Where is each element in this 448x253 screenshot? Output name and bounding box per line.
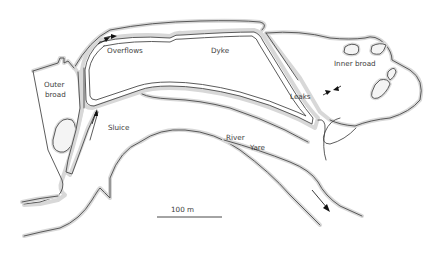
- scale-bar: 100 m: [157, 205, 222, 217]
- label-leaks: Leaks: [290, 92, 311, 101]
- label-river: River: [226, 133, 245, 142]
- inner-broad: [266, 32, 421, 144]
- label-outer-broad-2: broad: [45, 90, 66, 99]
- leaks-marker: [323, 86, 341, 95]
- label-sluice: Sluice: [108, 123, 130, 132]
- outer-shoreline: [74, 21, 265, 68]
- label-dyke: Dyke: [211, 46, 230, 55]
- flow-direction-arrow-icon: [323, 204, 330, 212]
- southern-bank: [142, 94, 326, 160]
- broad-site-map: Overflows Dyke Outer broad Inner broad L…: [0, 0, 448, 253]
- leak-arrow-icon: [333, 86, 339, 91]
- leak-arrow-icon: [325, 90, 331, 95]
- label-yare: Yare: [249, 143, 266, 152]
- dyke-embankment: [82, 30, 318, 128]
- scale-label: 100 m: [171, 205, 194, 214]
- label-inner-broad: Inner broad: [334, 59, 376, 68]
- label-overflows: Overflows: [107, 46, 143, 55]
- label-outer-broad-1: Outer: [44, 80, 64, 89]
